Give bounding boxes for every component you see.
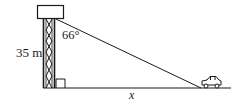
tower — [44, 19, 55, 88]
angle-label: 66° — [62, 29, 80, 42]
diagram: 35 m 66° x — [0, 0, 240, 104]
car-icon — [202, 77, 221, 89]
distance-label: x — [129, 89, 134, 101]
tank — [38, 6, 64, 19]
height-label: 35 m — [16, 46, 42, 59]
right-angle-marker — [56, 79, 65, 88]
